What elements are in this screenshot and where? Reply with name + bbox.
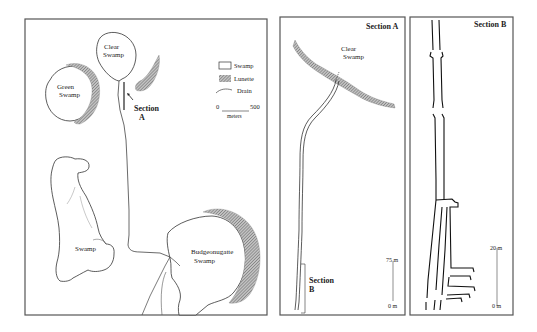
section-a-clear-swamp-2: Swamp (343, 53, 364, 61)
section-a-label-2: A (139, 113, 145, 122)
section-b-ref-label-1: Section (309, 276, 334, 285)
section-a-scale-bottom: 0 m (388, 302, 397, 310)
swamp-label: Swamp (75, 245, 96, 253)
legend-scale-start: 0 (216, 103, 219, 110)
legend-drain-label: Drain (237, 87, 252, 94)
legend-swamp-swatch (219, 62, 231, 69)
green-swamp-label-1: Green (57, 83, 74, 91)
section-a-title: Section A (366, 22, 398, 31)
lunette-clear (135, 55, 159, 91)
section-a-label-1: Section (134, 104, 159, 113)
section-b-frame (410, 17, 513, 315)
section-a-scale-top: 75 m (386, 256, 398, 264)
clear-swamp-label-2: Swamp (103, 51, 124, 59)
section-a-clear-swamp-1: Clear (341, 45, 356, 53)
clear-swamp-label-1: Clear (104, 43, 119, 51)
section-b-bracket (301, 264, 305, 313)
map-figure (0, 0, 537, 332)
green-swamp-label-2: Swamp (59, 91, 80, 99)
section-b-scale-top: 20 m (490, 244, 502, 252)
budgeonugatte-label-1: Budgeonugatte (191, 248, 233, 256)
section-b-drain (426, 20, 475, 310)
budgeonugatte-label-2: Swamp (194, 257, 215, 265)
legend-scale-unit: meters (227, 113, 242, 120)
legend-lunette-swatch (219, 75, 231, 82)
section-b-title: Section B (474, 20, 506, 29)
swamp-outline (51, 157, 114, 282)
legend-lunette-label: Lunette (234, 75, 254, 82)
section-a-frame (280, 17, 405, 315)
legend-drain-swatch (216, 89, 232, 93)
legend-scale-end: 500 (250, 103, 260, 110)
section-b-ref-label-2: B (309, 285, 314, 294)
legend-swamp-label: Swamp (234, 62, 254, 69)
section-b-scale-bottom: 0 m (492, 302, 501, 310)
